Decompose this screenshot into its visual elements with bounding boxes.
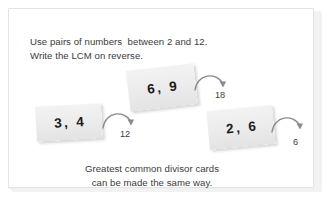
number-pair-card-3-4[interactable]: 3, 4 — [35, 103, 103, 142]
number-pair-card-6-9[interactable]: 6, 9 — [126, 63, 198, 111]
instructions-line-2: Write the LCM on reverse. — [30, 50, 143, 61]
card-label: 2, 6 — [223, 118, 259, 136]
instructions-block: Use pairs of numbers between 2 and 12. W… — [30, 35, 207, 63]
curved-arrow-right-icon — [271, 111, 305, 137]
footer-line-1: Greatest common divisor cards — [85, 163, 219, 174]
lcm-value-18: 18 — [215, 90, 225, 100]
footer-note: Greatest common divisor cards can be mad… — [9, 162, 313, 189]
instructions-line-1: Use pairs of numbers between 2 and 12. — [30, 36, 207, 47]
lcm-value-6: 6 — [293, 137, 298, 147]
poster-panel: Use pairs of numbers between 2 and 12. W… — [8, 8, 314, 188]
poster-canvas: Use pairs of numbers between 2 and 12. W… — [0, 0, 334, 209]
footer-line-2: can be made the same way. — [92, 177, 213, 188]
card-label: 6, 9 — [144, 78, 180, 97]
card-label: 3, 4 — [51, 114, 86, 131]
number-pair-card-2-6[interactable]: 2, 6 — [206, 105, 275, 150]
lcm-value-12: 12 — [120, 129, 130, 139]
